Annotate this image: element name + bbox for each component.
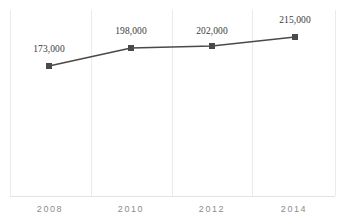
x-tick-label-2008: 2008 bbox=[37, 204, 63, 214]
data-label-2012: 202,000 bbox=[196, 26, 228, 36]
x-tick-label-2014: 2014 bbox=[281, 204, 307, 214]
data-label-2014: 215,000 bbox=[279, 15, 311, 25]
data-point-marker-2010 bbox=[128, 45, 134, 51]
data-label-2010: 198,000 bbox=[115, 26, 147, 36]
data-point-marker-2012 bbox=[209, 43, 215, 49]
data-point-marker-2008 bbox=[46, 63, 52, 69]
chart-plot-area bbox=[0, 0, 343, 220]
x-tick-label-2012: 2012 bbox=[199, 204, 225, 214]
x-tick-label-2010: 2010 bbox=[118, 204, 144, 214]
data-label-2008: 173,000 bbox=[33, 44, 65, 54]
line-chart: 173,000198,000202,000215,000 20082010201… bbox=[0, 0, 343, 220]
data-point-marker-2014 bbox=[292, 34, 298, 40]
